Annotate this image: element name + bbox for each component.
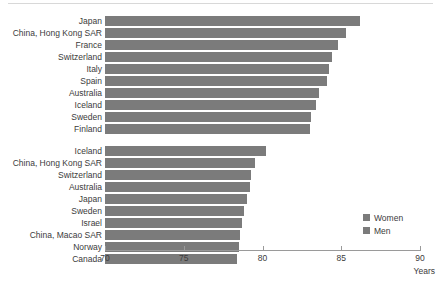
bar-men-6 xyxy=(105,218,242,228)
x-tick xyxy=(420,246,421,251)
legend-item-women: Women xyxy=(363,211,403,224)
bar-fill xyxy=(105,64,329,74)
category-label: Switzerland xyxy=(2,170,102,180)
bar-women-5 xyxy=(105,76,327,86)
category-label: Italy xyxy=(2,64,102,74)
category-label: Australia xyxy=(2,182,102,192)
bar-women-7 xyxy=(105,100,316,110)
x-tick xyxy=(105,246,106,251)
category-label: Japan xyxy=(2,16,102,26)
bar-women-0 xyxy=(105,16,360,26)
bar-men-1 xyxy=(105,158,255,168)
bar-fill xyxy=(105,100,316,110)
bar-fill xyxy=(105,76,327,86)
bar-women-1 xyxy=(105,28,346,38)
bar-fill xyxy=(105,28,346,38)
category-label: Canada xyxy=(2,254,102,264)
bar-fill xyxy=(105,206,244,216)
x-tick xyxy=(184,246,185,251)
x-axis-title: Years xyxy=(414,266,435,276)
bar-fill xyxy=(105,146,266,156)
category-label: Japan xyxy=(2,194,102,204)
x-tick-label: 85 xyxy=(337,253,346,263)
bar-men-3 xyxy=(105,182,250,192)
bar-women-2 xyxy=(105,40,338,50)
category-label: China, Hong Kong SAR xyxy=(2,158,102,168)
bar-fill xyxy=(105,16,360,26)
category-label: China, Hong Kong SAR xyxy=(2,28,102,38)
bar-chart: JapanChina, Hong Kong SARFranceSwitzerla… xyxy=(0,0,441,284)
bar-fill xyxy=(105,112,311,122)
bar-fill xyxy=(105,124,310,134)
bar-fill xyxy=(105,40,338,50)
x-tick xyxy=(341,246,342,251)
bar-fill xyxy=(105,88,319,98)
category-label: Australia xyxy=(2,88,102,98)
bar-women-8 xyxy=(105,112,311,122)
legend-item-men: Men xyxy=(363,224,403,237)
x-tick xyxy=(263,246,264,251)
bar-fill xyxy=(105,170,251,180)
bar-men-9 xyxy=(105,254,237,264)
category-label: Iceland xyxy=(2,100,102,110)
bar-men-4 xyxy=(105,194,247,204)
bar-women-3 xyxy=(105,52,332,62)
x-tick-label: 70 xyxy=(100,253,109,263)
bar-men-0 xyxy=(105,146,266,156)
bar-fill xyxy=(105,230,240,240)
bar-women-4 xyxy=(105,64,329,74)
top-divider xyxy=(8,3,433,4)
legend: WomenMen xyxy=(363,211,403,237)
bar-men-5 xyxy=(105,206,244,216)
x-tick-label: 90 xyxy=(415,253,424,263)
category-label: Sweden xyxy=(2,206,102,216)
bar-fill xyxy=(105,52,332,62)
category-label: China, Macao SAR xyxy=(2,230,102,240)
category-label: Sweden xyxy=(2,112,102,122)
bar-fill xyxy=(105,182,250,192)
category-axis-labels: JapanChina, Hong Kong SARFranceSwitzerla… xyxy=(0,14,102,248)
bar-women-9 xyxy=(105,124,310,134)
bar-fill xyxy=(105,158,255,168)
legend-label: Men xyxy=(374,226,391,236)
x-tick-label: 80 xyxy=(258,253,267,263)
category-label: Iceland xyxy=(2,146,102,156)
category-label: France xyxy=(2,40,102,50)
category-label: Finland xyxy=(2,124,102,134)
bar-fill xyxy=(105,194,247,204)
bar-men-2 xyxy=(105,170,251,180)
category-label: Norway xyxy=(2,242,102,252)
x-tick-label: 75 xyxy=(179,253,188,263)
legend-swatch-icon xyxy=(363,214,370,221)
bar-men-7 xyxy=(105,230,240,240)
bar-fill xyxy=(105,218,242,228)
category-label: Spain xyxy=(2,76,102,86)
category-label: Israel xyxy=(2,218,102,228)
category-label: Switzerland xyxy=(2,52,102,62)
legend-swatch-icon xyxy=(363,227,370,234)
legend-label: Women xyxy=(374,213,403,223)
bar-fill xyxy=(105,254,237,264)
bar-women-6 xyxy=(105,88,319,98)
